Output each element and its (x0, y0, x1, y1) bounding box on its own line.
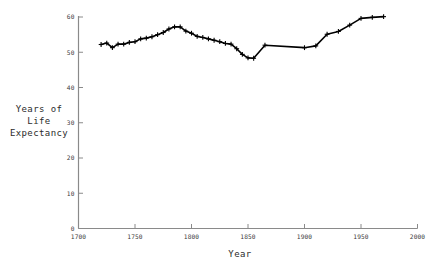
y-tick-label: 40 (67, 84, 75, 91)
y-tick-label: 10 (67, 190, 75, 197)
data-point (121, 42, 126, 47)
data-point (302, 45, 307, 50)
data-point (370, 15, 375, 20)
x-tick-label: 1850 (240, 233, 255, 240)
y-axis-title: Years ofLifeExpectancy (6, 103, 72, 139)
y-axis-title-line: Expectancy (6, 127, 72, 139)
y-axis-title-line: Years of (6, 103, 72, 115)
x-tick-label: 2000 (410, 233, 425, 240)
x-tick-label: 1800 (184, 233, 199, 240)
data-point-markers (99, 14, 386, 60)
y-tick-label: 20 (67, 154, 75, 161)
axes (79, 16, 418, 229)
y-tick-label: 0 (71, 225, 75, 232)
data-point (155, 32, 160, 37)
x-axis-title: Year (200, 248, 280, 260)
y-tick-label: 60 (67, 13, 75, 20)
x-tick-label: 1950 (353, 233, 368, 240)
x-tick-label: 1700 (71, 233, 86, 240)
x-tick-label: 1900 (297, 233, 312, 240)
data-point (206, 36, 211, 41)
data-point (217, 39, 222, 44)
data-point (150, 34, 155, 39)
data-point (99, 42, 104, 47)
axis-ticks (79, 17, 418, 229)
data-point (223, 41, 228, 46)
y-tick-label: 50 (67, 49, 75, 56)
chart-container: 0102030405060170017501800185019001950200… (0, 0, 439, 274)
axis-tick-labels: 0102030405060170017501800185019001950200… (67, 13, 425, 240)
data-point (381, 14, 386, 19)
data-point (200, 35, 205, 40)
x-tick-label: 1750 (127, 233, 142, 240)
data-point (212, 38, 217, 43)
data-point (144, 36, 149, 41)
data-point (127, 40, 132, 45)
data-point (172, 24, 177, 29)
y-axis-title-line: Life (6, 115, 72, 127)
